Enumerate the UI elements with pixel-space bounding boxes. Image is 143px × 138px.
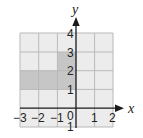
x-tick-label: −3 [13, 111, 27, 125]
x-tick-label: 2 [109, 111, 116, 125]
x-axis-arrow-icon [115, 105, 124, 112]
y-axis-arrow-icon [72, 17, 79, 26]
x-tick-label: −1 [50, 111, 64, 125]
y-tick-label: 4 [67, 27, 74, 41]
x-axis-label: x [127, 101, 135, 116]
y-tick-label: 2 [67, 64, 74, 78]
y-tick-label: 3 [67, 46, 74, 60]
x-tick-label: −2 [31, 111, 45, 125]
y-tick-label: 1 [67, 120, 74, 134]
y-tick-label: 1 [67, 83, 74, 97]
x-tick-label: 1 [91, 111, 98, 125]
coordinate-plane: x y −3 −2 −1 0 1 2 1 1 2 3 4 [0, 0, 143, 138]
y-axis-label: y [70, 2, 79, 17]
